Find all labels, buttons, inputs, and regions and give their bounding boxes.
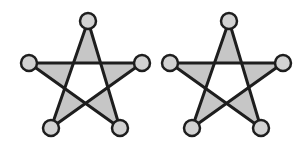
- node-top: [221, 13, 237, 29]
- node-left: [162, 55, 178, 71]
- node-right: [134, 55, 150, 71]
- node-right: [275, 55, 291, 71]
- star-right: [162, 13, 291, 136]
- node-bottom-left: [184, 120, 200, 136]
- node-bottom-right: [112, 120, 128, 136]
- node-top: [80, 13, 96, 29]
- node-bottom-left: [43, 120, 59, 136]
- pentagram-figure: [0, 0, 308, 147]
- node-left: [21, 55, 37, 71]
- star-left: [21, 13, 150, 136]
- node-bottom-right: [253, 120, 269, 136]
